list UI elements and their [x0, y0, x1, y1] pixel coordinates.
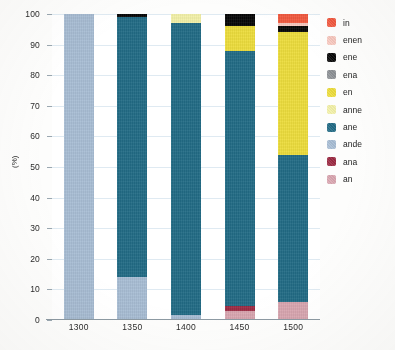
legend-label: ena	[343, 70, 357, 80]
legend-label: enen	[343, 35, 362, 45]
legend-item-ana[interactable]: ana	[327, 153, 393, 170]
legend-swatch-icon	[327, 140, 336, 149]
bar-1350[interactable]	[117, 14, 147, 320]
y-tick-label: 60	[30, 131, 40, 141]
legend-label: in	[343, 18, 350, 28]
x-tick-label: 1450	[230, 322, 250, 332]
legend-item-ena[interactable]: ena	[327, 66, 393, 83]
plot-area	[52, 14, 320, 320]
legend-swatch-icon	[327, 18, 336, 27]
x-tick-label: 1500	[283, 322, 303, 332]
y-tick-mark	[47, 167, 52, 168]
legend-item-ande[interactable]: ande	[327, 136, 393, 153]
bar-segment-en[interactable]	[225, 26, 255, 50]
y-tick-label: 10	[30, 284, 40, 294]
legend-item-anne[interactable]: anne	[327, 101, 393, 118]
bar-1450[interactable]	[225, 14, 255, 320]
legend-swatch-icon	[327, 123, 336, 132]
bar-segment-ane[interactable]	[225, 51, 255, 307]
legend-item-en[interactable]: en	[327, 84, 393, 101]
legend-label: ana	[343, 157, 357, 167]
legend: ineneneneenaenanneaneandeanaan	[327, 14, 393, 188]
bar-1300[interactable]	[64, 14, 94, 320]
legend-swatch-icon	[327, 105, 336, 114]
y-tick-mark	[47, 136, 52, 137]
legend-swatch-icon	[327, 157, 336, 166]
legend-label: anne	[343, 105, 362, 115]
y-tick-label: 80	[30, 70, 40, 80]
legend-swatch-icon	[327, 88, 336, 97]
legend-swatch-icon	[327, 70, 336, 79]
bar-segment-ane[interactable]	[171, 23, 201, 315]
y-tick-label: 70	[30, 101, 40, 111]
y-tick-label: 40	[30, 193, 40, 203]
bar-1500[interactable]	[278, 14, 308, 320]
bar-segment-ane[interactable]	[117, 17, 147, 277]
y-tick-mark	[47, 259, 52, 260]
y-tick-mark	[47, 106, 52, 107]
y-tick-mark	[47, 320, 52, 321]
bar-segment-an[interactable]	[278, 302, 308, 320]
x-axis-line	[46, 319, 320, 320]
legend-label: en	[343, 87, 352, 97]
bar-segment-ane[interactable]	[278, 155, 308, 302]
y-tick-mark	[47, 45, 52, 46]
legend-item-ane[interactable]: ane	[327, 118, 393, 135]
legend-swatch-icon	[327, 53, 336, 62]
chart-figure: 0102030405060708090100 (%) 1300135014001…	[0, 0, 395, 350]
y-tick-label: 100	[25, 9, 40, 19]
y-tick-label: 90	[30, 40, 40, 50]
y-tick-label: 20	[30, 254, 40, 264]
bar-segment-ande[interactable]	[117, 277, 147, 320]
y-tick-mark	[47, 75, 52, 76]
x-tick-label: 1350	[122, 322, 142, 332]
bar-segment-anne[interactable]	[171, 14, 201, 23]
bar-segment-enen[interactable]	[278, 23, 308, 26]
bar-1400[interactable]	[171, 14, 201, 320]
y-tick-label: 0	[35, 315, 40, 325]
y-axis-title: (%)	[10, 156, 19, 168]
bar-segment-in[interactable]	[278, 14, 308, 23]
bar-segment-ene[interactable]	[278, 26, 308, 32]
y-axis-labels: 0102030405060708090100	[0, 14, 48, 320]
bar-segment-en[interactable]	[278, 32, 308, 154]
bar-segment-ana[interactable]	[225, 306, 255, 311]
x-axis-labels: 13001350140014501500	[52, 322, 320, 342]
bar-segment-ene[interactable]	[117, 14, 147, 17]
y-tick-label: 30	[30, 223, 40, 233]
legend-label: ane	[343, 122, 357, 132]
legend-item-enen[interactable]: enen	[327, 31, 393, 48]
x-tick-label: 1300	[69, 322, 89, 332]
y-tick-mark	[47, 289, 52, 290]
legend-item-ene[interactable]: ene	[327, 49, 393, 66]
legend-label: an	[343, 174, 352, 184]
bar-segment-ande[interactable]	[64, 14, 94, 320]
y-tick-mark	[47, 228, 52, 229]
legend-swatch-icon	[327, 175, 336, 184]
bar-segment-ene[interactable]	[225, 14, 255, 26]
legend-item-an[interactable]: an	[327, 171, 393, 188]
x-tick-label: 1400	[176, 322, 196, 332]
y-tick-label: 50	[30, 162, 40, 172]
legend-label: ene	[343, 52, 357, 62]
y-tick-mark	[47, 14, 52, 15]
legend-swatch-icon	[327, 36, 336, 45]
legend-item-in[interactable]: in	[327, 14, 393, 31]
legend-label: ande	[343, 139, 362, 149]
y-tick-mark	[47, 198, 52, 199]
